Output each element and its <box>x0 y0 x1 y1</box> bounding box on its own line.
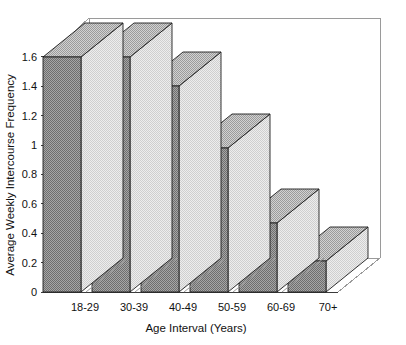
bar-side-face-2 <box>179 52 221 292</box>
chart-canvas: 0 0.2 0.4 0.6 0.8 1 1.2 1.4 1.6 <box>0 0 406 345</box>
y-axis-title: Average Weekly Intercourse Frequency <box>4 74 16 276</box>
x-cat-label-50-59: 50-59 <box>218 301 246 313</box>
y-tick-label-1: 0.2 <box>22 257 37 269</box>
y-tick-label-2: 0.4 <box>22 227 37 239</box>
x-axis-title: Age Interval (Years) <box>145 322 246 334</box>
bar-side-face-0 <box>81 23 123 292</box>
y-tick-label-4: 0.8 <box>22 168 37 180</box>
x-cat-label-40-49: 40-49 <box>169 301 197 313</box>
y-tick-label-0: 0 <box>31 286 37 298</box>
bar-chart-figure: 0 0.2 0.4 0.6 0.8 1 1.2 1.4 1.6 <box>0 0 406 345</box>
y-tick-label-6: 1.2 <box>22 110 37 122</box>
bar-front-face-0 <box>43 57 81 292</box>
y-axis-tick-labels: 0 0.2 0.4 0.6 0.8 1 1.2 1.4 1.6 <box>22 51 37 298</box>
y-tick-label-8: 1.6 <box>22 51 37 63</box>
bar-18-29[interactable] <box>43 23 123 292</box>
x-cat-label-30-39: 30-39 <box>120 301 148 313</box>
bar-side-face-1 <box>130 23 172 292</box>
x-cat-label-18-29: 18-29 <box>71 301 99 313</box>
y-tick-label-5: 1 <box>31 139 37 151</box>
x-cat-label-70plus: 70+ <box>319 301 338 313</box>
y-tick-label-7: 1.4 <box>22 80 37 92</box>
x-cat-label-60-69: 60-69 <box>267 301 295 313</box>
y-tick-label-3: 0.6 <box>22 198 37 210</box>
